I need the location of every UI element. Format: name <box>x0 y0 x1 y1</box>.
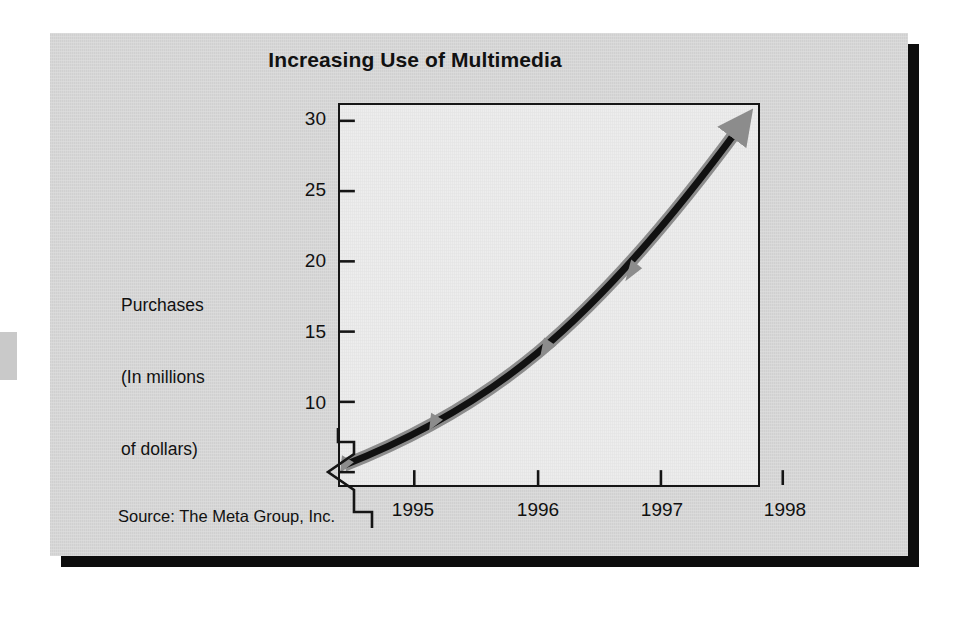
scan-edge-artifact <box>0 332 17 380</box>
x-tick-label-1998: 1998 <box>740 499 830 521</box>
y-tick-marks <box>340 121 355 472</box>
series-line <box>344 129 738 465</box>
x-tick-label-1995: 1995 <box>368 499 458 521</box>
series-canvas <box>340 105 758 485</box>
y-axis-caption-line-1: Purchases <box>121 293 205 317</box>
x-tick-marks <box>414 470 782 485</box>
source-note: Source: The Meta Group, Inc. <box>118 507 335 526</box>
figure-card: Increasing Use of Multimedia Purchases (… <box>50 33 908 556</box>
series-line-shadow <box>344 129 738 465</box>
chart-title: Increasing Use of Multimedia <box>50 48 908 72</box>
y-tick-label-25: 25 <box>266 179 326 201</box>
x-tick-label-1996: 1996 <box>493 499 583 521</box>
y-axis-caption-line-3: of dollars) <box>121 437 205 461</box>
plot-area <box>338 103 760 487</box>
y-axis-caption-line-2: (In millions <box>121 365 205 389</box>
x-tick-label-1997: 1997 <box>617 499 707 521</box>
y-tick-label-20: 20 <box>266 250 326 272</box>
y-tick-label-15: 15 <box>266 321 326 343</box>
screenshot-root: Increasing Use of Multimedia Purchases (… <box>0 0 957 620</box>
y-tick-label-10: 10 <box>266 392 326 414</box>
y-tick-label-30: 30 <box>266 108 326 130</box>
y-axis-caption: Purchases (In millions of dollars) <box>121 245 205 509</box>
